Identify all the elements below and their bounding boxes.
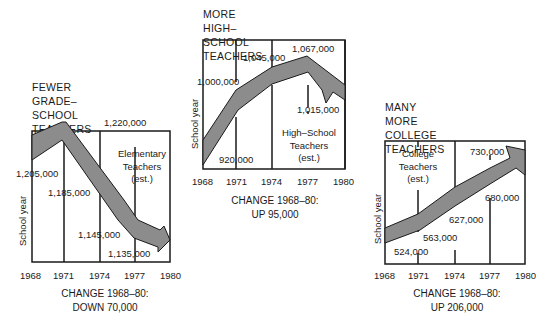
x-tick: 1968 xyxy=(374,270,395,281)
change-summary: CHANGE 1968–80: UP 206,000 xyxy=(392,287,522,315)
x-tick: 1980 xyxy=(515,270,536,281)
series-note: College Teachers (est.) xyxy=(390,148,446,186)
x-tick: 1971 xyxy=(408,270,429,281)
data-label: 730,000 xyxy=(470,146,504,157)
x-tick: 1977 xyxy=(479,270,500,281)
data-label: 563,000 xyxy=(423,232,457,243)
data-label: 524,000 xyxy=(394,246,428,257)
x-tick: 1974 xyxy=(444,270,465,281)
data-label: 627,000 xyxy=(449,214,483,225)
data-label: 680,000 xyxy=(485,192,519,203)
y-axis-label: School year xyxy=(372,194,383,244)
